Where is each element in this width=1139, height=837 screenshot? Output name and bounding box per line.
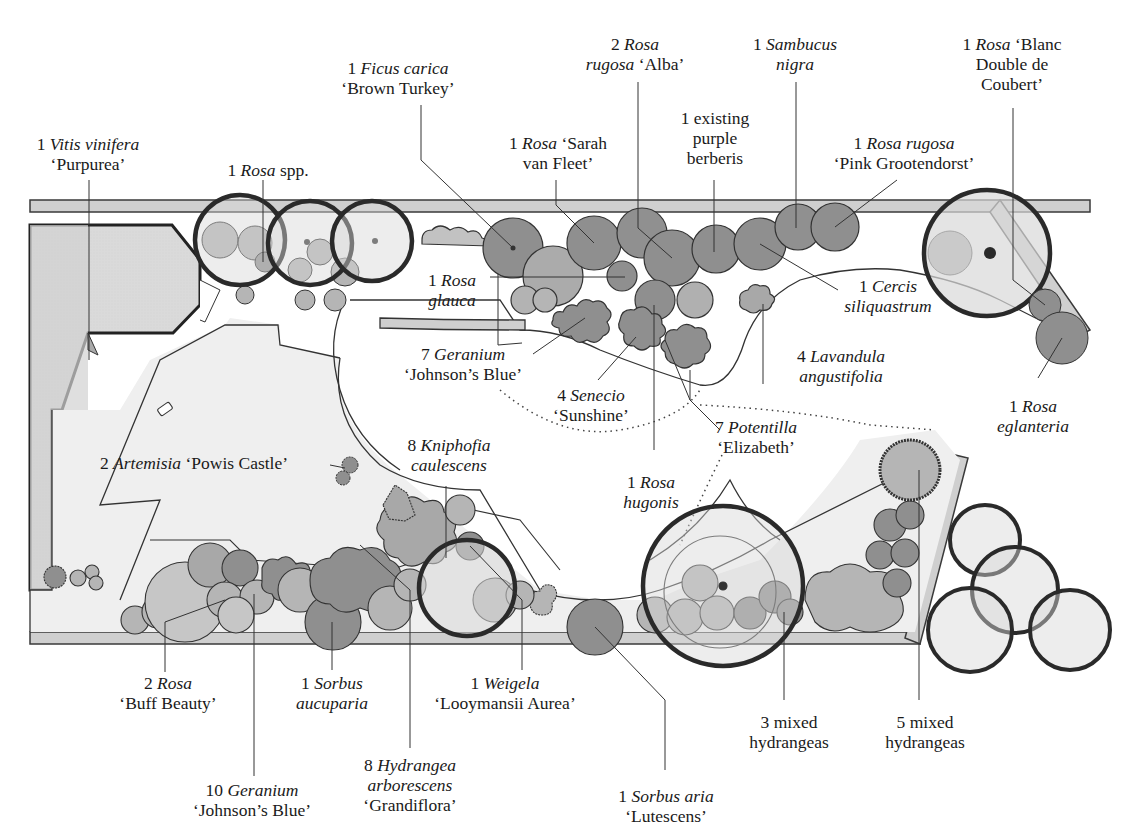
label-lavandula: 4 Lavandulaangustifolia [797,346,885,386]
label-geranium-10: 10 Geranium‘Johnson’s Blue’ [193,780,311,820]
label-artemisia: 2 Artemisia ‘Powis Castle’ [100,453,288,473]
label-kniphofia: 8 Kniphofiacaulescens [407,435,490,475]
label-hydrangea-arb: 8 Hydrangeaarborescens‘Grandiflora’ [363,755,456,815]
label-senecio: 4 Senecio‘Sunshine’ [553,385,629,425]
label-rosa-pink-groot: 1 Rosa rugosa‘Pink Grootendorst’ [834,133,974,173]
label-sorbus-aucuparia: 1 Sorbusaucuparia [296,673,368,713]
label-cercis: 1 Cercissiliquastrum [844,276,932,316]
label-rosa-buff: 2 Rosa‘Buff Beauty’ [119,673,216,713]
label-weigela: 1 Weigela‘Looymansii Aurea’ [434,673,575,713]
label-vitis: 1 Vitis vinifera‘Purpurea’ [37,134,140,174]
label-berberis: 1 existingpurpleberberis [681,108,750,168]
label-rosa-hugonis: 1 Rosahugonis [623,472,678,512]
label-hydrangeas-3: 3 mixedhydrangeas [749,712,829,752]
label-rosa-sarah: 1 Rosa ‘Sarahvan Fleet’ [509,133,607,173]
label-rosa-spp: 1 Rosa spp. [227,160,308,180]
label-ficus: 1 Ficus carica‘Brown Turkey’ [341,58,454,98]
label-rosa-glauca: 1 Rosaglauca [428,270,476,310]
label-hydrangeas-5: 5 mixedhydrangeas [885,712,965,752]
label-rosa-blanc: 1 Rosa ‘BlancDouble deCoubert’ [962,34,1061,94]
rosa-blanc-double-de-coubert [924,190,1088,364]
label-sambucus: 1 Sambucusnigra [753,34,837,74]
label-sorbus-aria: 1 Sorbus aria‘Lutescens’ [618,786,713,826]
label-potentilla: 7 Potentilla‘Elizabeth’ [715,417,797,457]
label-rosa-eglanteria: 1 Rosaeglanteria [997,396,1069,436]
label-rosa-rugosa-alba: 2 Rosarugosa ‘Alba’ [586,34,685,74]
label-geranium-7: 7 Geranium‘Johnson’s Blue’ [404,344,522,384]
rosa-spp-group [195,195,412,311]
